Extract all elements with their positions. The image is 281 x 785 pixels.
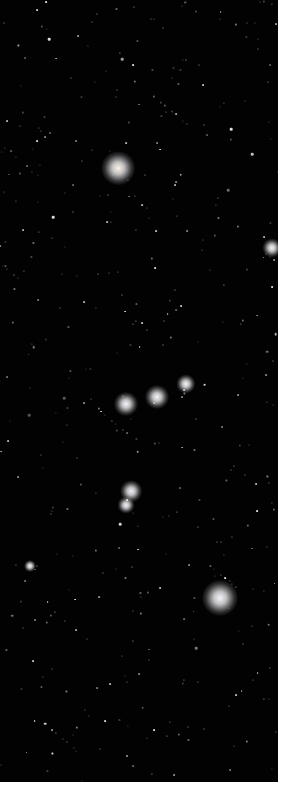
- background-star: [7, 440, 9, 442]
- background-star: [31, 172, 32, 173]
- background-star: [266, 547, 267, 548]
- background-star: [162, 516, 163, 517]
- background-star: [75, 629, 77, 631]
- background-star: [87, 45, 88, 46]
- background-star: [81, 96, 82, 97]
- background-star: [233, 466, 234, 467]
- background-star: [227, 189, 230, 192]
- background-star: [256, 510, 258, 512]
- background-star: [141, 323, 143, 325]
- background-star: [162, 28, 163, 29]
- background-star: [170, 337, 171, 338]
- background-star: [199, 499, 200, 500]
- background-star: [266, 350, 269, 353]
- background-star: [41, 130, 42, 131]
- background-star: [148, 592, 149, 593]
- background-star: [115, 96, 116, 97]
- background-star: [275, 23, 277, 25]
- background-star: [257, 672, 259, 674]
- background-star: [263, 236, 265, 238]
- background-star: [132, 512, 133, 513]
- background-star: [141, 706, 144, 709]
- background-star: [26, 165, 28, 167]
- background-star: [184, 393, 185, 394]
- background-star: [86, 638, 87, 639]
- background-star: [221, 541, 222, 542]
- background-star: [55, 732, 56, 733]
- background-star: [263, 699, 264, 700]
- background-star: [163, 321, 164, 322]
- background-star: [46, 339, 47, 340]
- background-star: [175, 289, 176, 290]
- background-star: [215, 204, 216, 205]
- background-star: [151, 258, 152, 259]
- background-star: [128, 196, 130, 198]
- background-star: [33, 242, 34, 243]
- background-star: [246, 36, 247, 37]
- background-star: [77, 35, 79, 37]
- background-star: [243, 377, 244, 378]
- background-star: [72, 734, 73, 735]
- background-star: [136, 451, 139, 454]
- background-star: [251, 153, 254, 156]
- background-star: [127, 725, 128, 726]
- background-star: [74, 747, 75, 748]
- background-star: [210, 566, 211, 567]
- background-star: [50, 615, 51, 616]
- background-star: [181, 5, 182, 6]
- background-star: [167, 313, 169, 315]
- background-star: [116, 430, 117, 431]
- background-star: [52, 507, 53, 508]
- background-star: [176, 215, 177, 216]
- background-star: [81, 780, 82, 781]
- background-star: [3, 265, 4, 266]
- background-star: [52, 216, 55, 219]
- background-star: [132, 566, 133, 567]
- background-star: [36, 9, 38, 11]
- background-star: [203, 728, 204, 729]
- background-star: [20, 601, 21, 602]
- background-star: [66, 741, 67, 742]
- background-star: [105, 70, 106, 71]
- background-star: [236, 24, 237, 25]
- background-star: [178, 734, 179, 735]
- background-star: [18, 45, 19, 46]
- background-star: [150, 19, 151, 20]
- background-star: [202, 239, 203, 240]
- background-star: [116, 89, 117, 90]
- background-star: [198, 341, 199, 342]
- background-star: [96, 14, 97, 15]
- betelgeuse-star: [101, 151, 135, 185]
- background-star: [116, 8, 117, 9]
- background-star: [141, 204, 143, 206]
- background-star: [269, 64, 271, 66]
- background-star: [168, 516, 169, 517]
- background-star: [68, 377, 69, 378]
- background-star: [38, 201, 39, 202]
- background-star: [108, 272, 109, 273]
- background-star: [133, 7, 134, 8]
- background-star: [22, 112, 23, 113]
- background-star: [44, 722, 47, 725]
- background-star: [134, 195, 135, 196]
- background-star: [9, 420, 10, 421]
- background-star: [173, 774, 175, 776]
- background-star: [223, 322, 224, 323]
- background-star: [219, 19, 220, 20]
- background-star: [269, 122, 270, 123]
- background-star: [52, 753, 53, 754]
- background-star: [213, 518, 214, 519]
- background-star: [124, 311, 126, 313]
- background-star: [242, 320, 243, 321]
- background-star: [51, 669, 52, 670]
- background-star: [197, 526, 198, 527]
- background-star: [28, 354, 30, 356]
- background-star: [154, 267, 156, 269]
- background-star: [118, 547, 120, 549]
- background-star: [122, 294, 123, 295]
- background-star: [198, 681, 199, 682]
- background-star: [144, 174, 145, 175]
- background-star: [125, 142, 127, 144]
- background-star: [64, 620, 65, 621]
- background-star: [247, 23, 248, 24]
